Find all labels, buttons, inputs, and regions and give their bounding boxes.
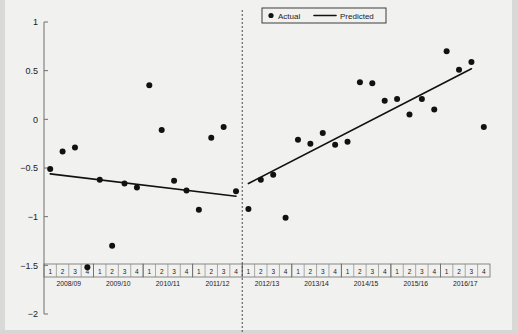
data-point — [295, 137, 301, 143]
x-axis-quarter-label: 1 — [247, 268, 251, 275]
data-point — [146, 82, 152, 88]
x-axis-quarter-label: 3 — [172, 268, 176, 275]
data-point — [47, 166, 53, 172]
x-axis-quarter-label: 2 — [110, 268, 114, 275]
x-axis-quarter-label: 3 — [271, 268, 275, 275]
x-axis-quarter-label: 4 — [383, 268, 387, 275]
x-axis-quarter-label: 2 — [358, 268, 362, 275]
y-axis-tick-label: 0.5 — [25, 66, 38, 76]
data-point — [444, 48, 450, 54]
data-point — [196, 207, 202, 213]
x-axis-quarter-label: 4 — [333, 268, 337, 275]
data-point — [84, 264, 90, 270]
data-point — [283, 215, 289, 221]
x-axis-quarter-label: 4 — [482, 268, 486, 275]
data-point — [431, 107, 437, 113]
x-axis-year-label: 2011/12 — [205, 280, 229, 287]
x-axis-year-label: 2012/13 — [255, 280, 280, 287]
x-axis-year-label: 2013/14 — [304, 280, 329, 287]
data-point — [369, 80, 375, 86]
y-axis-tick-label: 0 — [33, 115, 38, 125]
predicted-trend-segment — [248, 69, 471, 184]
data-point — [122, 181, 128, 187]
x-axis-year-label: 2014/15 — [354, 280, 379, 287]
x-axis-quarter-label: 2 — [259, 268, 263, 275]
x-axis-year-label: 2010/11 — [156, 280, 180, 287]
x-axis-quarter-label: 2 — [160, 268, 164, 275]
y-axis-tick-label: −0.5 — [20, 163, 38, 173]
data-point — [419, 96, 425, 102]
scatter-plot: 10.50−0.5−1−1.5−2 1234123412341234123412… — [0, 0, 518, 334]
data-point — [208, 135, 214, 141]
data-point — [481, 124, 487, 130]
data-point — [456, 67, 462, 73]
x-axis-quarter-label: 4 — [284, 268, 288, 275]
data-point — [307, 141, 313, 147]
x-axis-quarter-label: 1 — [48, 268, 52, 275]
x-axis-quarter-label: 1 — [147, 268, 151, 275]
x-axis-quarter-label: 2 — [309, 268, 313, 275]
y-axis-tick-labels: 10.50−0.5−1−1.5−2 — [20, 17, 38, 319]
x-axis-quarter-label: 2 — [408, 268, 412, 275]
x-axis-quarter-label: 2 — [209, 268, 213, 275]
data-point — [233, 188, 239, 194]
data-point — [406, 111, 412, 117]
x-axis-quarter-label: 3 — [370, 268, 374, 275]
x-axis-quarter-label: 4 — [135, 268, 139, 275]
actual-data-points — [47, 48, 487, 270]
x-axis-quarter-label: 1 — [98, 268, 102, 275]
x-axis-quarter-label: 2 — [457, 268, 461, 275]
data-point — [60, 148, 66, 154]
x-axis-quarter-label: 1 — [296, 268, 300, 275]
legend-label-predicted: Predicted — [340, 12, 374, 21]
data-point — [183, 187, 189, 193]
data-point — [468, 59, 474, 65]
x-axis-quarter-label: 4 — [185, 268, 189, 275]
x-axis-year-label: 2016/17 — [453, 280, 478, 287]
data-point — [394, 96, 400, 102]
x-axis-quarter-label: 3 — [470, 268, 474, 275]
data-point — [221, 124, 227, 130]
data-point — [382, 98, 388, 104]
legend-marker-actual — [268, 13, 273, 18]
x-axis-quarter-label: 3 — [420, 268, 424, 275]
y-axis-tick-label: −2 — [28, 309, 38, 319]
x-axis-quarter-label: 4 — [234, 268, 238, 275]
data-point — [345, 139, 351, 145]
y-axis-tick-label: −1.5 — [20, 261, 38, 271]
x-axis-quarter-label: 1 — [346, 268, 350, 275]
x-axis-quarter-label: 3 — [73, 268, 77, 275]
x-axis-year-label: 2008/09 — [56, 280, 81, 287]
data-point — [258, 177, 264, 183]
x-axis-quarter-label: 1 — [445, 268, 449, 275]
x-axis-year-label: 2015/16 — [403, 280, 428, 287]
predicted-trend-segment — [50, 174, 236, 196]
data-point — [134, 184, 140, 190]
x-axis-quarter-label: 3 — [321, 268, 325, 275]
data-point — [245, 206, 251, 212]
y-axis-tick-label: 1 — [33, 17, 38, 27]
chart-legend: ActualPredicted — [262, 8, 386, 23]
data-point — [109, 243, 115, 249]
chart-canvas: 10.50−0.5−1−1.5−2 1234123412341234123412… — [0, 0, 518, 334]
x-axis-quarter-label: 1 — [395, 268, 399, 275]
x-axis-quarter-label: 2 — [61, 268, 65, 275]
x-axis-quarter-label: 3 — [123, 268, 127, 275]
data-point — [357, 79, 363, 85]
x-axis-quarter-label: 4 — [432, 268, 436, 275]
data-point — [159, 127, 165, 133]
data-point — [72, 145, 78, 151]
x-axis-quarter-label: 3 — [222, 268, 226, 275]
legend-label-actual: Actual — [278, 12, 300, 21]
data-point — [97, 177, 103, 183]
x-axis-quarter-label: 1 — [197, 268, 201, 275]
data-point — [270, 172, 276, 178]
y-axis-tick-label: −1 — [28, 212, 38, 222]
data-point — [171, 178, 177, 184]
x-axis-year-labels: 2008/092009/102010/112011/122012/132013/… — [56, 280, 477, 287]
x-axis-year-label: 2009/10 — [106, 280, 131, 287]
data-point — [320, 130, 326, 136]
data-point — [332, 142, 338, 148]
